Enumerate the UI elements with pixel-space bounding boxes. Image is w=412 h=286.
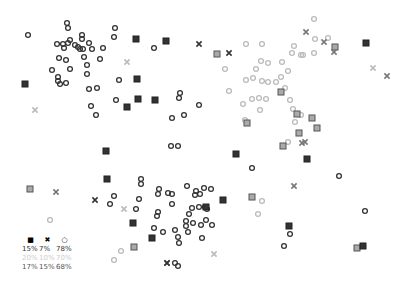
legend: ■ ✖ ○ 15% 7% 78% 20% 10% 70% 17% 15% 68% [22, 236, 73, 272]
x-marker [164, 260, 169, 265]
circle-marker [82, 55, 87, 60]
legend-header: ■ ✖ ○ [22, 236, 73, 245]
circle-marker [288, 232, 293, 237]
x-marker [321, 39, 326, 44]
x-marker [196, 41, 201, 46]
square-marker [286, 223, 292, 229]
square-marker [314, 125, 320, 131]
circle-marker [190, 206, 195, 211]
square-marker [354, 245, 360, 251]
circle-marker [288, 98, 293, 103]
square-marker [294, 111, 300, 117]
circle-marker [95, 86, 100, 91]
circle-marker [94, 113, 99, 118]
legend-value: 70% [56, 254, 73, 263]
circle-marker [112, 258, 117, 263]
square-marker [104, 176, 110, 182]
circle-marker [157, 187, 162, 192]
legend-value: 17% [22, 263, 39, 272]
circle-marker [197, 205, 202, 210]
circle-marker [227, 89, 232, 94]
circle-marker [184, 219, 189, 224]
circle-marker [156, 192, 161, 197]
square-marker [124, 104, 130, 110]
circle-marker [250, 97, 255, 102]
x-marker [303, 29, 308, 34]
circle-marker [137, 197, 142, 202]
circle-marker [209, 187, 214, 192]
circle-marker [119, 249, 124, 254]
circle-marker [260, 79, 265, 84]
circle-marker [176, 264, 181, 269]
circle-marker [337, 174, 342, 179]
circle-marker [186, 230, 191, 235]
x-marker [211, 251, 216, 256]
circle-marker [85, 72, 90, 77]
square-marker [22, 81, 28, 87]
circle-marker [202, 186, 207, 191]
circle-marker [363, 209, 368, 214]
square-marker [214, 51, 220, 57]
x-marker [53, 189, 58, 194]
x-marker [92, 197, 97, 202]
square-marker [130, 220, 136, 226]
legend-row-dark: 15% 7% 78% [22, 245, 73, 254]
circle-marker [57, 56, 62, 61]
legend-row-medium: 17% 15% 68% [22, 263, 73, 272]
circle-marker [251, 76, 256, 81]
square-marker [134, 76, 140, 82]
legend-value: 7% [39, 245, 56, 254]
circle-marker [176, 235, 181, 240]
circle-marker [210, 223, 215, 228]
circle-marker [244, 78, 249, 83]
x-icon: ✖ [39, 236, 56, 245]
circle-marker [139, 182, 144, 187]
circle-marker [66, 26, 71, 31]
square-marker [304, 156, 310, 162]
circle-marker [223, 67, 228, 72]
square-marker [309, 115, 315, 121]
circle-marker [139, 177, 144, 182]
circle-marker [260, 42, 265, 47]
circle-marker [191, 221, 196, 226]
circle-marker [259, 59, 264, 64]
square-marker [296, 130, 302, 136]
circle-marker [170, 202, 175, 207]
square-marker [244, 120, 250, 126]
circle-marker [313, 37, 318, 42]
circle-marker [177, 241, 182, 246]
square-marker [131, 244, 137, 250]
circle-marker [266, 61, 271, 66]
legend-value: 78% [56, 245, 73, 254]
circle-marker [293, 120, 298, 125]
circle-marker [264, 97, 269, 102]
square-marker [152, 97, 158, 103]
circle-marker [114, 98, 119, 103]
circle-marker [134, 207, 139, 212]
circle-marker [241, 102, 246, 107]
square-marker [363, 40, 369, 46]
square-marker [163, 38, 169, 44]
square-marker [133, 36, 139, 42]
legend-value: 10% [39, 254, 56, 263]
x-marker [384, 73, 389, 78]
circle-marker [197, 103, 202, 108]
circle-marker [101, 46, 106, 51]
circle-marker [200, 236, 205, 241]
circle-marker [204, 218, 209, 223]
circle-marker [87, 41, 92, 46]
legend-value: 15% [22, 245, 39, 254]
square-marker [278, 89, 284, 95]
circle-marker [260, 199, 265, 204]
circle-marker [64, 58, 69, 63]
circle-marker [266, 80, 271, 85]
circle-marker [199, 223, 204, 228]
legend-row-light: 20% 10% 70% [22, 254, 73, 263]
circle-marker [177, 96, 182, 101]
circle-marker [89, 104, 94, 109]
circle-marker [185, 184, 190, 189]
x-marker [124, 59, 129, 64]
circle-marker [286, 69, 291, 74]
circle-marker [48, 218, 53, 223]
circle-marker [290, 51, 295, 56]
